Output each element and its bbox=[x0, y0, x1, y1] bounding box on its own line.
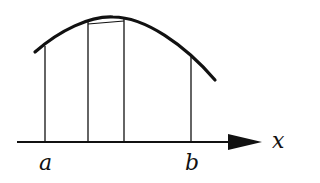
strip-top-chord bbox=[88, 21, 124, 24]
label-x: x bbox=[272, 128, 284, 153]
function-curve bbox=[35, 17, 215, 80]
label-a: a bbox=[39, 150, 52, 175]
x-axis-arrow-icon bbox=[228, 134, 262, 150]
label-b: b bbox=[185, 150, 199, 175]
